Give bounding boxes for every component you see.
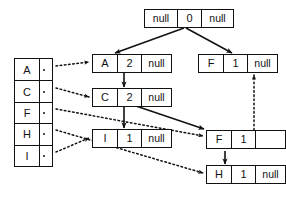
node-c-next: null (141, 89, 171, 106)
node-f-mid-count: 1 (231, 131, 255, 148)
node-root[interactable]: null 0 null (144, 9, 234, 28)
node-f-top-next: null (247, 55, 277, 72)
edge-c-to-f-mid (136, 106, 204, 129)
node-c[interactable]: C 2 null (92, 88, 172, 107)
table-row[interactable]: A (15, 59, 52, 80)
index-pointer-f (39, 103, 52, 123)
index-key-c: C (15, 81, 39, 101)
edge-a-index-to-a (56, 62, 89, 66)
node-h[interactable]: H 1 null (206, 165, 286, 184)
node-root-next: null (201, 10, 233, 27)
index-key-a: A (15, 59, 39, 80)
edge-root-to-f-top (186, 28, 232, 53)
node-i-count: 1 (117, 130, 141, 147)
node-c-count: 2 (117, 89, 141, 106)
node-i-next: null (141, 130, 171, 147)
edge-c-index-to-c (56, 88, 89, 97)
node-f-mid-next (255, 131, 285, 148)
node-h-next: null (255, 166, 285, 183)
node-a-count: 2 (117, 55, 141, 72)
edge-root-to-a (115, 28, 184, 53)
table-row[interactable]: H (15, 123, 52, 144)
node-root-key: null (145, 10, 177, 27)
index-pointer-a (39, 59, 52, 80)
index-key-i: I (15, 146, 39, 166)
node-f-top[interactable]: F 1 null (198, 54, 278, 73)
node-f-mid[interactable]: F 1 (206, 130, 286, 149)
node-i[interactable]: I 1 null (92, 129, 172, 148)
table-row[interactable]: C (15, 80, 52, 101)
table-row[interactable]: F (15, 102, 52, 123)
index-pointer-i (39, 146, 52, 166)
node-a-next: null (141, 55, 171, 72)
index-table: A C F H I (14, 58, 53, 167)
node-f-mid-key: F (207, 131, 231, 148)
node-c-key: C (93, 89, 117, 106)
node-i-key: I (93, 130, 117, 147)
node-h-key: H (207, 166, 231, 183)
node-f-top-key: F (199, 55, 223, 72)
index-pointer-h (39, 124, 52, 144)
node-a-key: A (93, 55, 117, 72)
diagram-canvas: A C F H I null 0 null A 2 null F 1 (0, 0, 286, 202)
node-a[interactable]: A 2 null (92, 54, 172, 73)
index-key-f: F (15, 103, 39, 123)
node-f-top-count: 1 (223, 55, 247, 72)
edge-i-index-to-i (56, 138, 89, 152)
index-key-h: H (15, 124, 39, 144)
node-root-count: 0 (177, 10, 201, 27)
index-pointer-c (39, 81, 52, 101)
node-h-count: 1 (231, 166, 255, 183)
table-row[interactable]: I (15, 145, 52, 166)
